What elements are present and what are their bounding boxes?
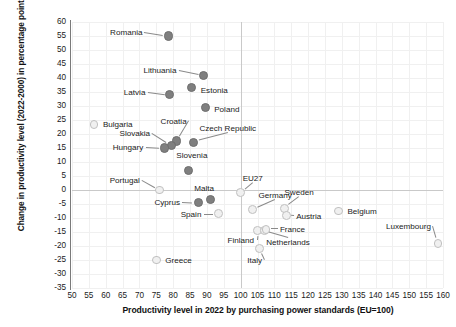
data-point[interactable] (201, 103, 210, 112)
y-tick-label: -10 (40, 214, 66, 222)
data-point[interactable] (90, 120, 99, 129)
y-axis-line (70, 20, 71, 290)
x-tick-label: 160 (431, 292, 455, 300)
scatter-chart: Change in productivity level (2022-2000)… (0, 0, 456, 327)
data-point-label: Finland (228, 236, 255, 245)
gridline-vertical (376, 22, 377, 288)
reference-line-x-eu100 (241, 22, 242, 288)
data-point-label: Belgium (347, 207, 376, 216)
data-point-label: Portugal (110, 176, 140, 185)
data-point[interactable] (214, 209, 223, 218)
data-point-label: Netherlands (266, 238, 310, 247)
data-point-label: Sweden (284, 188, 313, 197)
data-point[interactable] (184, 166, 193, 175)
data-point-label: Cyprus (154, 198, 180, 207)
y-tick-label: -15 (40, 228, 66, 236)
y-tick-label: 45 (40, 60, 66, 68)
gridline-vertical (342, 22, 343, 288)
data-point[interactable] (248, 205, 257, 214)
gridline-horizontal (72, 204, 443, 205)
y-tick-label: -35 (40, 284, 66, 292)
gridline-horizontal (72, 78, 443, 79)
y-tick-label: 55 (40, 32, 66, 40)
y-tick-label: 50 (40, 46, 66, 54)
data-point[interactable] (194, 198, 203, 207)
gridline-horizontal (72, 22, 443, 23)
data-point[interactable] (206, 195, 215, 204)
data-point-label: Austria (296, 212, 321, 221)
gridline-vertical (72, 22, 73, 288)
gridline-vertical (426, 22, 427, 288)
data-point-label: Slovenia (176, 151, 207, 160)
gridline-horizontal (72, 218, 443, 219)
y-tick-label: -30 (40, 270, 66, 278)
data-point-label: Luxembourg (386, 222, 431, 231)
data-point-label: Malta (194, 184, 214, 193)
x-axis-title: Productivity level in 2022 by purchasing… (60, 305, 456, 315)
data-point[interactable] (255, 244, 264, 253)
gridline-vertical (392, 22, 393, 288)
gridline-vertical (274, 22, 275, 288)
y-tick-label: 5 (40, 172, 66, 180)
y-tick-label: -5 (40, 200, 66, 208)
y-tick-label: 60 (40, 18, 66, 26)
data-point[interactable] (434, 239, 443, 248)
gridline-vertical (409, 22, 410, 288)
data-point-label: Latvia (124, 88, 146, 97)
data-point-label: Hungary (113, 143, 144, 152)
label-leader-line (141, 180, 155, 188)
data-point-label: France (280, 225, 305, 234)
y-tick-label: 25 (40, 116, 66, 124)
data-point-label: Romania (110, 28, 142, 37)
data-point[interactable] (155, 186, 164, 195)
data-point[interactable] (334, 207, 343, 216)
y-tick-label: -25 (40, 256, 66, 264)
gridline-vertical (139, 22, 140, 288)
data-point-label: Bulgaria (103, 120, 133, 129)
label-leader-line (182, 202, 192, 204)
gridline-horizontal (72, 162, 443, 163)
data-point[interactable] (152, 256, 161, 265)
label-leader-line (257, 236, 258, 240)
data-point-label: Italy (247, 256, 262, 265)
data-point[interactable] (160, 143, 169, 152)
data-point-label: Greece (165, 256, 192, 265)
data-point[interactable] (187, 83, 196, 92)
data-point-label: EU27 (243, 174, 263, 183)
data-point[interactable] (199, 71, 208, 80)
data-point-label: Spain (181, 210, 202, 219)
gridline-vertical (123, 22, 124, 288)
gridline-horizontal (72, 274, 443, 275)
y-tick-label: 40 (40, 74, 66, 82)
y-tick-label: 20 (40, 130, 66, 138)
label-leader-line (204, 214, 214, 215)
gridline-vertical (106, 22, 107, 288)
data-point-label: Estonia (201, 86, 228, 95)
gridline-horizontal (72, 106, 443, 107)
gridline-vertical (308, 22, 309, 288)
gridline-horizontal (72, 288, 443, 289)
y-tick-label: 0 (40, 186, 66, 194)
gridline-vertical (291, 22, 292, 288)
gridline-vertical (89, 22, 90, 288)
y-tick-label: 30 (40, 102, 66, 110)
gridline-horizontal (72, 64, 443, 65)
y-tick-label: 10 (40, 158, 66, 166)
gridline-vertical (224, 22, 225, 288)
label-leader-line (178, 70, 198, 75)
data-point[interactable] (236, 188, 245, 197)
data-point[interactable] (189, 138, 198, 147)
gridline-horizontal (72, 50, 443, 51)
y-tick-label: -20 (40, 242, 66, 250)
gridline-vertical (325, 22, 326, 288)
y-axis-title: Change in productivity level (2022-2000)… (16, 0, 27, 239)
gridline-vertical (359, 22, 360, 288)
label-leader-line (244, 182, 252, 189)
y-tick-label: 15 (40, 144, 66, 152)
data-point[interactable] (282, 211, 291, 220)
gridline-vertical (173, 22, 174, 288)
data-point-label: Croatia (161, 117, 187, 126)
gridline-vertical (443, 22, 444, 288)
data-point-label: Lithuania (144, 66, 177, 75)
data-point[interactable] (164, 31, 173, 40)
